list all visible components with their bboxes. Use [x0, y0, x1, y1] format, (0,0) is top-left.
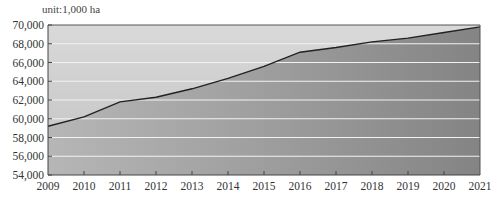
y-tick-label: 70,000	[0, 19, 44, 31]
y-tick-label: 60,000	[0, 113, 44, 125]
x-tick-label: 2017	[318, 180, 354, 192]
x-tick-label: 2018	[354, 180, 390, 192]
x-tick-label: 2020	[426, 180, 462, 192]
x-tick-label: 2015	[246, 180, 282, 192]
y-tick-label: 58,000	[0, 132, 44, 144]
x-tick-label: 2013	[174, 180, 210, 192]
x-tick-label: 2014	[210, 180, 246, 192]
x-tick-label: 2016	[282, 180, 318, 192]
x-tick-label: 2021	[462, 180, 498, 192]
x-tick-label: 2009	[30, 180, 66, 192]
y-tick-label: 56,000	[0, 150, 44, 162]
chart-plot-area	[0, 0, 501, 202]
x-tick-label: 2012	[138, 180, 174, 192]
y-tick-label: 62,000	[0, 94, 44, 106]
x-tick-label: 2019	[390, 180, 426, 192]
y-tick-label: 64,000	[0, 75, 44, 87]
x-tick-label: 2010	[66, 180, 102, 192]
y-tick-label: 68,000	[0, 38, 44, 50]
x-tick-label: 2011	[102, 180, 138, 192]
y-tick-label: 66,000	[0, 57, 44, 69]
